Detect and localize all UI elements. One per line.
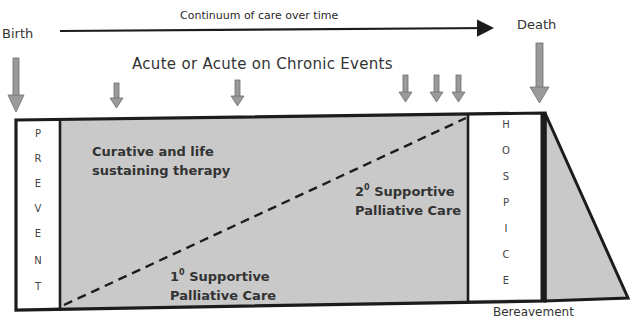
primary-palliative-label: 10 Supportive Palliative Care xyxy=(170,263,276,305)
bereavement-triangle xyxy=(545,113,628,301)
event-down-arrow-icon-5 xyxy=(452,75,465,102)
curative-therapy-label: Curative and life sustaining therapy xyxy=(92,142,230,180)
prevent-letter: P xyxy=(32,128,44,139)
continuum-arrow xyxy=(60,28,492,31)
event-down-arrow-icon-2 xyxy=(231,80,244,106)
events-label: Acute or Acute on Chronic Events xyxy=(132,55,393,73)
prevent-letter: N xyxy=(32,255,44,266)
hospice-letter: H xyxy=(500,119,512,130)
death-down-arrow-icon xyxy=(530,43,549,103)
prevent-letter: E xyxy=(32,178,44,189)
event-down-arrow-icon-4 xyxy=(430,75,443,102)
event-down-arrow-icon-3 xyxy=(399,75,412,102)
birth-down-arrow-icon xyxy=(8,58,24,112)
hospice-letter: I xyxy=(500,223,512,234)
prevent-letter: T xyxy=(32,281,44,292)
birth-label: Birth xyxy=(2,26,33,41)
prevent-letter: R xyxy=(32,153,44,164)
event-down-arrow-icon-1 xyxy=(110,83,123,108)
hospice-letter: C xyxy=(500,249,512,260)
death-label: Death xyxy=(517,17,556,32)
hospice-letter: S xyxy=(500,171,512,182)
continuum-title: Continuum of care over time xyxy=(180,9,338,22)
secondary-palliative-label: 20 Supportive Palliative Care xyxy=(355,178,461,220)
hospice-letter: O xyxy=(500,145,512,156)
hospice-letter: E xyxy=(500,275,512,286)
hospice-letter: P xyxy=(500,197,512,208)
prevent-letter: E xyxy=(32,228,44,239)
prevent-letter: V xyxy=(32,203,44,214)
bereavement-label: Bereavement xyxy=(493,305,574,318)
